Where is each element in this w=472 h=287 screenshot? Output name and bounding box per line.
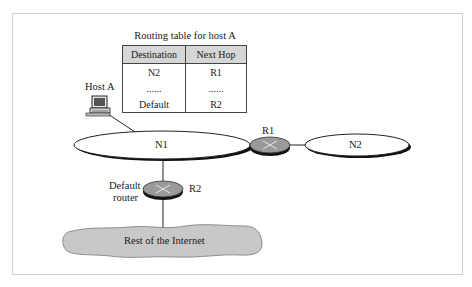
table-row: N2 R1 — [123, 64, 247, 81]
n1-label: N1 — [155, 140, 168, 151]
host-a-label: Host A — [85, 82, 114, 93]
routing-table: Destination Next Hop N2 R1 ...... ......… — [122, 45, 247, 113]
routing-table-title: Routing table for host A — [122, 30, 248, 41]
n2-label: N2 — [349, 140, 362, 151]
header-destination: Destination — [123, 46, 186, 64]
header-next-hop: Next Hop — [186, 46, 247, 64]
r1-label: R1 — [262, 126, 274, 137]
cell-destination: N2 — [123, 64, 186, 81]
default-router-label-line2: router — [113, 193, 138, 204]
cell-destination: Default — [123, 96, 186, 113]
router-r2-icon — [143, 181, 183, 200]
link-host-n1 — [108, 114, 135, 132]
cell-next-hop: ...... — [186, 80, 247, 96]
table-row: ...... ...... — [123, 80, 247, 96]
cell-destination: ...... — [123, 80, 186, 96]
computer-icon — [86, 96, 110, 116]
router-r1-icon — [250, 137, 290, 156]
default-router-label-line1: Default — [109, 181, 141, 192]
internet-label: Rest of the Internet — [124, 236, 205, 247]
r2-label: R2 — [189, 184, 201, 195]
table-header-row: Destination Next Hop — [123, 46, 247, 64]
cell-next-hop: R1 — [186, 64, 247, 81]
cell-next-hop: R2 — [186, 96, 247, 113]
network-diagram — [0, 0, 472, 287]
table-row: Default R2 — [123, 96, 247, 113]
